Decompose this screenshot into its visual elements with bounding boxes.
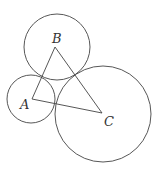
- label-b: B: [51, 31, 62, 46]
- triangle-circles-diagram: A B C: [0, 0, 157, 170]
- triangle-abc: [32, 47, 102, 113]
- circle-b: [24, 14, 90, 80]
- circle-a: [7, 75, 55, 123]
- circle-c: [55, 66, 151, 162]
- label-a: A: [19, 97, 29, 112]
- label-c: C: [104, 114, 114, 129]
